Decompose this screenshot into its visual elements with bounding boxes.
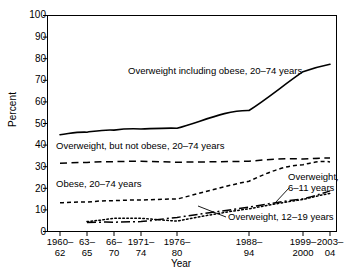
label-overweight-6-11-line1: Overweight,	[288, 171, 339, 182]
label-overweight-not-obese: Overweight, but not obese, 20–74 years	[56, 140, 224, 151]
label-overweight-6-11: Overweight, 6–11 years	[288, 171, 339, 193]
x-tick-line2: 80	[149, 247, 205, 258]
x-tick-label: 1976– 80	[149, 236, 205, 258]
x-tick-line1: 2003–	[317, 236, 343, 247]
chart-figure: 100 90 80 70 60 50 40 30 20 10 0 1960– 6…	[0, 0, 362, 280]
x-tick-label: 2003– 04	[302, 236, 358, 258]
label-obese: Obese, 20–74 years	[56, 178, 142, 189]
x-tick-line1: 1976–	[164, 236, 190, 247]
label-overweight-including-obese: Overweight including obese, 20–74 years	[128, 65, 302, 76]
x-tick-label: 1988– 94	[221, 236, 277, 258]
x-tick-line2: 04	[302, 247, 358, 258]
x-axis-title: Year	[0, 258, 362, 269]
x-tick-line2: 94	[221, 247, 277, 258]
x-tick-line1: 1988–	[236, 236, 262, 247]
label-overweight-12-19: Overweight, 12–19 years	[228, 211, 334, 222]
y-axis-title: Percent	[7, 75, 18, 145]
label-overweight-6-11-line2: 6–11 years	[288, 182, 334, 193]
